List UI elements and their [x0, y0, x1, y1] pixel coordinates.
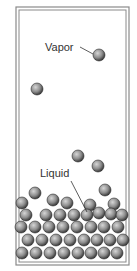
vapor-liquid-diagram: Vapor Liquid: [0, 0, 137, 271]
liquid-molecule: [47, 194, 59, 206]
liquid-molecule: [93, 207, 105, 219]
liquid-molecule: [68, 209, 80, 221]
liquid-molecule: [112, 221, 124, 233]
liquid-molecule: [116, 209, 128, 221]
liquid-molecule: [111, 247, 123, 259]
vapor-molecules: [31, 49, 105, 172]
liquid-molecule: [29, 221, 41, 233]
liquid-molecule: [50, 234, 62, 246]
liquid-molecule: [71, 221, 83, 233]
liquid-molecule: [30, 247, 42, 259]
liquid-molecule: [44, 247, 56, 259]
liquid-molecule: [16, 247, 28, 259]
liquid-molecule: [81, 209, 93, 221]
liquid-molecule: [61, 197, 73, 209]
liquid-molecule: [78, 234, 90, 246]
liquid-molecule: [15, 221, 27, 233]
vapor-label: Vapor: [45, 41, 74, 53]
vapor-molecule: [72, 150, 84, 162]
liquid-molecule: [85, 247, 97, 259]
liquid-molecule: [40, 209, 52, 221]
liquid-molecule: [98, 221, 110, 233]
liquid-molecule: [85, 221, 97, 233]
liquid-molecule: [43, 221, 55, 233]
liquid-molecule: [64, 234, 76, 246]
liquid-leader-line: [71, 181, 87, 212]
liquid-molecule: [29, 187, 41, 199]
liquid-label: Liquid: [40, 167, 69, 179]
liquid-molecule: [57, 221, 69, 233]
liquid-molecule: [72, 247, 84, 259]
liquid-molecules: [15, 184, 129, 259]
liquid-molecule: [36, 234, 48, 246]
liquid-molecule: [98, 247, 110, 259]
liquid-molecule: [58, 247, 70, 259]
liquid-molecule: [104, 234, 116, 246]
vapor-leader-line: [80, 47, 93, 54]
liquid-molecule: [20, 209, 32, 221]
liquid-molecule: [117, 234, 129, 246]
liquid-molecule: [16, 197, 28, 209]
vapor-molecule: [92, 160, 104, 172]
liquid-molecule: [54, 209, 66, 221]
vapor-molecule: [31, 83, 43, 95]
liquid-molecule: [99, 184, 111, 196]
liquid-molecule: [22, 234, 34, 246]
liquid-molecule: [105, 208, 117, 220]
liquid-molecule: [91, 234, 103, 246]
vapor-molecule: [93, 49, 105, 61]
